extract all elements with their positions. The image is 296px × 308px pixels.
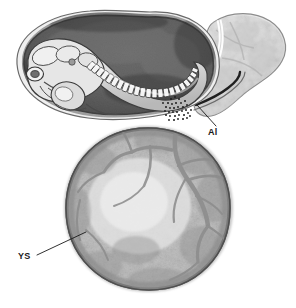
label-yolk-sac: YS <box>18 252 30 261</box>
figure-root: Al YS <box>0 0 296 308</box>
otic-vesicle <box>69 59 75 65</box>
embryo-illustration-svg <box>0 0 296 308</box>
embryo-eye <box>27 67 44 81</box>
label-allantois: Al <box>208 128 217 137</box>
